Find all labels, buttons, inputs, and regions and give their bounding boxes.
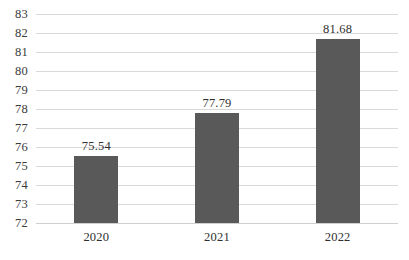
x-axis: 202020212022 — [36, 231, 398, 253]
bar[interactable] — [316, 39, 360, 223]
y-tick-label: 83 — [15, 8, 28, 21]
bar-value-label: 81.68 — [323, 23, 352, 36]
x-tick-label: 2022 — [325, 231, 351, 244]
bar[interactable] — [195, 113, 239, 223]
y-tick-label: 79 — [15, 84, 28, 97]
y-tick-label: 72 — [15, 217, 28, 230]
x-tick-label: 2021 — [204, 231, 230, 244]
plot-area: 75.5477.7981.68 — [36, 14, 398, 223]
y-tick-label: 81 — [15, 46, 28, 59]
y-tick-label: 80 — [15, 65, 28, 78]
y-tick-label: 73 — [15, 198, 28, 211]
y-tick-label: 82 — [15, 27, 28, 40]
bar-chart: 727374757677787980818283 75.5477.7981.68… — [0, 0, 409, 260]
y-tick-label: 76 — [15, 141, 28, 154]
bar[interactable] — [74, 156, 118, 223]
y-tick-label: 74 — [15, 179, 28, 192]
y-tick-label: 75 — [15, 160, 28, 173]
y-tick-label: 77 — [15, 122, 28, 135]
gridline — [36, 223, 398, 224]
x-tick-label: 2020 — [83, 231, 109, 244]
gridline — [36, 14, 398, 15]
bar-value-label: 77.79 — [202, 97, 231, 110]
y-axis: 727374757677787980818283 — [0, 0, 32, 260]
y-tick-label: 78 — [15, 103, 28, 116]
bar-value-label: 75.54 — [82, 140, 111, 153]
